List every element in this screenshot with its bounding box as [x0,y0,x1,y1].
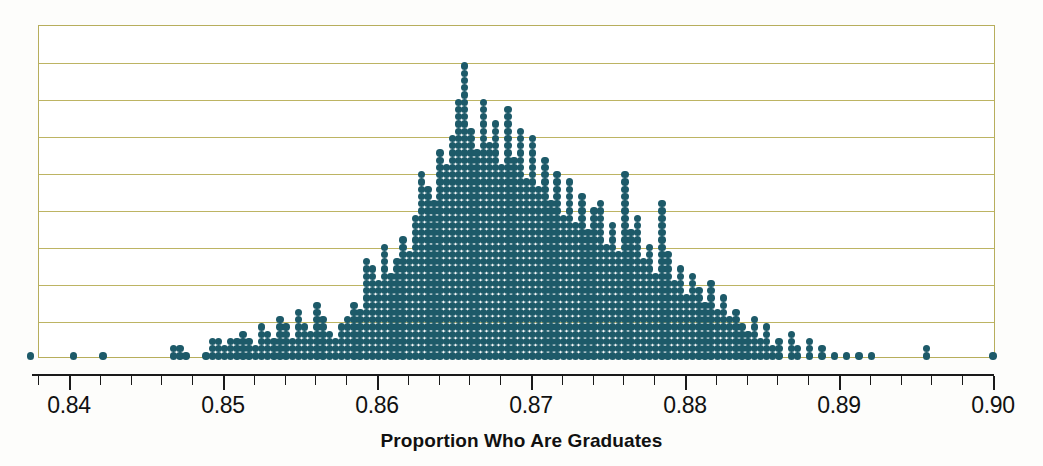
axis-tick-minor [593,376,594,385]
plot-frame [38,25,995,358]
axis-tick-major [531,376,533,390]
axis-tick-minor [808,376,809,385]
gridline [39,322,994,323]
axis-tick-label: 0.84 [47,392,91,419]
axis-tick-minor [962,376,963,385]
axis-tick-major [993,376,995,390]
dot-plot-figure: 0.840.850.860.870.880.890.90 Proportion … [0,0,1043,466]
axis-tick-minor [315,376,316,385]
axis-tick-minor [254,376,255,385]
axis-tick-minor [623,376,624,385]
axis-tick-label: 0.85 [201,392,245,419]
axis-tick-minor [500,376,501,385]
axis-tick-minor [131,376,132,385]
axis-tick-minor [931,376,932,385]
axis-tick-minor [408,376,409,385]
axis-tick-minor [346,376,347,385]
axis-tick-minor [100,376,101,385]
axis-tick-minor [901,376,902,385]
axis-tick-minor [469,376,470,385]
gridline [39,174,994,175]
gridline [39,285,994,286]
axis-tick-minor [439,376,440,385]
axis-tick-label: 0.90 [971,392,1015,419]
x-axis-title: Proportion Who Are Graduates [0,430,1043,452]
axis-tick-minor [777,376,778,385]
gridline [39,211,994,212]
axis-tick-minor [716,376,717,385]
gridline [39,248,994,249]
gridline [39,100,994,101]
gridline [39,137,994,138]
axis-tick-major [377,376,379,390]
axis-tick-minor [562,376,563,385]
axis-tick-minor [747,376,748,385]
axis-tick-major [69,376,71,390]
axis-tick-label: 0.88 [663,392,707,419]
axis-tick-major [685,376,687,390]
axis-tick-minor [161,376,162,385]
axis-tick-label: 0.87 [509,392,553,419]
axis-tick-major [223,376,225,390]
gridline [39,63,994,64]
axis-tick-minor [192,376,193,385]
axis-tick-minor [870,376,871,385]
axis-tick-major [839,376,841,390]
axis-tick-minor [654,376,655,385]
x-axis-line [32,374,994,376]
axis-tick-minor [285,376,286,385]
axis-tick-minor [38,376,39,385]
axis-tick-label: 0.89 [817,392,861,419]
axis-tick-label: 0.86 [355,392,399,419]
data-dot [27,352,34,359]
